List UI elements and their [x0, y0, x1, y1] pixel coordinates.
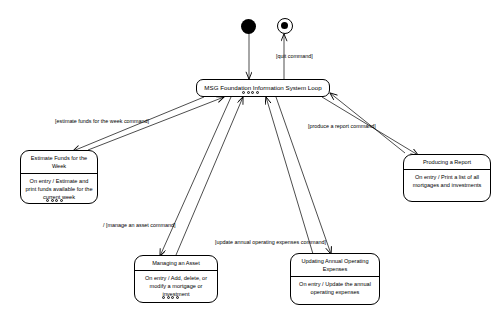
selection-handle[interactable]: [162, 296, 165, 299]
transition-label-manage-asset: / [manage an asset command]: [103, 222, 176, 229]
state-producing-report[interactable]: Producing a Report On entry / Print a li…: [403, 154, 491, 202]
selection-handle[interactable]: [167, 296, 170, 299]
selection-handle[interactable]: [60, 199, 63, 202]
selection-handle[interactable]: [247, 91, 250, 94]
selection-handle[interactable]: [176, 296, 179, 299]
selection-handle[interactable]: [46, 199, 49, 202]
state-estimate-funds[interactable]: Estimate Funds for the Week On entry / E…: [20, 150, 98, 204]
transition-label-estimate-funds: [estimate funds for the week command]: [55, 118, 149, 125]
selection-handle[interactable]: [242, 91, 245, 94]
state-producing-report-label: Producing a Report: [404, 155, 490, 169]
final-state-inner-dot: [281, 22, 288, 29]
selection-handles-managing-asset[interactable]: [162, 296, 179, 299]
state-updating-expenses-label: Updating Annual Operating Expenses: [291, 254, 379, 276]
selection-handles-loop[interactable]: [242, 91, 259, 94]
state-managing-asset-label: Managing an Asset: [135, 256, 217, 270]
edge-expenses-to-loop: [266, 97, 313, 254]
statechart-diagram-canvas: MSG Foundation Information System Loop E…: [0, 0, 498, 320]
edge-loop-to-expenses: [276, 97, 331, 254]
state-producing-report-activity: On entry / Print a list of all mortgages…: [404, 170, 490, 191]
transition-label-produce-report: [produce a report command]: [308, 123, 376, 130]
final-state-marker[interactable]: [277, 18, 293, 34]
state-msg-foundation-loop[interactable]: MSG Foundation Information System Loop: [196, 79, 330, 97]
edge-manage-to-loop: [176, 97, 243, 255]
transition-label-update-expenses: [update annual operating expenses comman…: [215, 239, 326, 246]
initial-state-marker[interactable]: [241, 19, 256, 34]
selection-handles-estimate-funds[interactable]: [46, 199, 63, 202]
edge-loop-to-manage: [160, 97, 231, 256]
selection-handle[interactable]: [51, 199, 54, 202]
state-updating-expenses[interactable]: Updating Annual Operating Expenses On en…: [290, 253, 380, 305]
selection-handle[interactable]: [256, 91, 259, 94]
selection-handle[interactable]: [55, 199, 58, 202]
state-estimate-funds-label: Estimate Funds for the Week: [21, 151, 97, 173]
transition-label-quit: [quit command]: [276, 53, 313, 60]
state-msg-foundation-loop-label: MSG Foundation Information System Loop: [197, 80, 329, 97]
selection-handle[interactable]: [251, 91, 254, 94]
state-updating-expenses-activity: On entry / Update the annual operating e…: [291, 277, 379, 298]
selection-handle[interactable]: [171, 296, 174, 299]
